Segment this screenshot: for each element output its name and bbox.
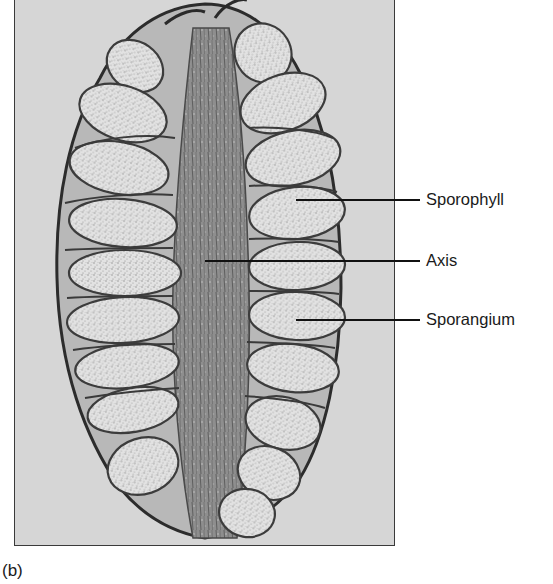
label-axis: Axis: [426, 252, 457, 269]
cone-section-image: [15, 0, 395, 546]
micrograph-frame: [14, 0, 395, 546]
label-sporophyll: Sporophyll: [426, 191, 504, 208]
panel-label: (b): [2, 562, 23, 579]
label-sporangium: Sporangium: [426, 311, 515, 328]
leader-line-sporophyll: [296, 199, 420, 201]
axis: [173, 28, 250, 538]
leader-line-axis: [205, 260, 420, 262]
figure: Sporophyll Axis Sporangium (b): [0, 0, 553, 584]
leader-line-sporangium: [296, 319, 420, 321]
